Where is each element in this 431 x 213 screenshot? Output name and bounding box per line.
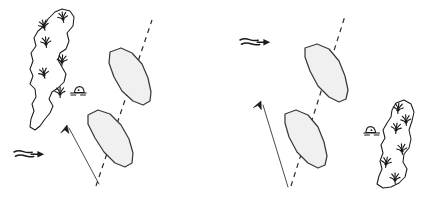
panel-left: [14, 9, 152, 186]
bearing-arrow-right-shaft: [263, 105, 288, 187]
sailing-diagram: [0, 0, 431, 213]
rock-marker-left-icon: [70, 87, 86, 95]
wind-arrow-right-icon: [240, 39, 270, 46]
rock-marker-right-icon: [364, 127, 380, 135]
diagram-canvas: [0, 0, 431, 213]
boat-upper-right: [305, 44, 348, 102]
boat-upper-left: [109, 48, 151, 105]
boat-lower-left: [88, 110, 133, 167]
wind-arrow-left-icon: [14, 151, 44, 158]
grass-tuft-icon: [55, 87, 65, 98]
boat-lower-right: [285, 110, 327, 168]
bearing-arrow-right-head-icon: [252, 101, 263, 112]
panel-right: [240, 16, 414, 188]
bearing-arrow-left-head-icon: [59, 125, 71, 137]
island-left-outline: [30, 9, 74, 130]
